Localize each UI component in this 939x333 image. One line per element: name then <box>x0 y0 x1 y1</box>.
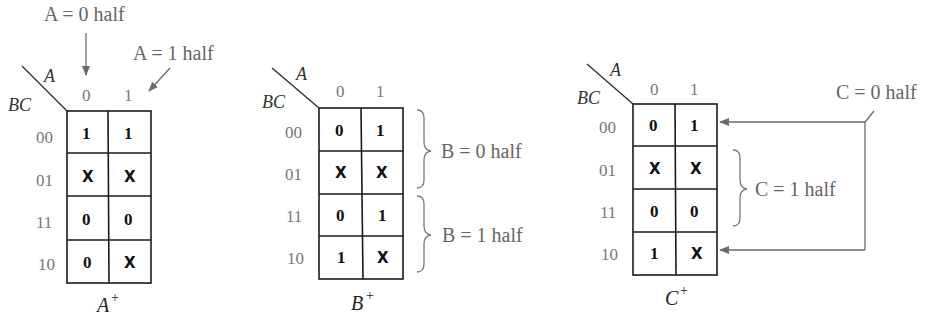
cell-11-0: 0 <box>650 202 659 221</box>
row-label-00: 00 <box>285 123 302 142</box>
row-label-10: 10 <box>601 245 618 264</box>
row-label-00: 00 <box>599 118 616 137</box>
kmap-grid <box>67 111 151 283</box>
row-label-11: 11 <box>36 213 52 232</box>
map-title: C <box>665 287 679 309</box>
cell-11-0: 0 <box>82 210 91 229</box>
row-variable-label: BC <box>577 88 601 108</box>
col-label-0: 0 <box>650 80 659 99</box>
brace-icon <box>417 110 431 188</box>
cell-10-1: X <box>124 254 136 272</box>
col-variable-label: A <box>43 66 56 86</box>
b-zero-half-label: B = 0 half <box>441 140 522 162</box>
map-title-superscript: + <box>680 283 688 298</box>
cell-01-1: X <box>376 164 388 182</box>
a-one-half-label: A = 1 half <box>133 42 214 64</box>
kmap-c: A BC 0 1 00 01 11 10 0 1 X X 0 0 1 X C +… <box>577 60 917 309</box>
cell-10-0: 0 <box>83 253 92 272</box>
leader-tick <box>865 111 874 122</box>
arrow-diagonal-icon <box>149 68 170 91</box>
col-label-0: 0 <box>82 86 91 105</box>
row-label-10: 10 <box>38 255 55 274</box>
row-label-01: 01 <box>36 171 53 190</box>
c-one-half-label: C = 1 half <box>755 178 836 200</box>
cell-01-1: X <box>124 168 136 186</box>
cell-01-1: X <box>690 160 702 178</box>
cell-11-1: 1 <box>378 206 387 225</box>
cell-01-0: X <box>82 168 94 186</box>
row-variable-label: BC <box>8 95 32 115</box>
cell-01-0: X <box>335 164 347 182</box>
cell-10-0: 1 <box>337 248 346 267</box>
brace-icon <box>417 196 431 272</box>
cell-00-1: 1 <box>124 124 133 143</box>
cell-00-0: 0 <box>335 121 344 140</box>
col-variable-label: A <box>609 60 622 80</box>
row-label-00: 00 <box>36 128 53 147</box>
map-title: A <box>95 294 110 316</box>
col-label-0: 0 <box>336 82 345 101</box>
col-label-1: 1 <box>124 86 133 105</box>
col-variable-label: A <box>295 64 308 84</box>
b-one-half-label: B = 1 half <box>442 224 523 246</box>
kmap-b: A BC 0 1 00 01 11 10 0 1 X X 0 1 1 X B +… <box>262 64 523 314</box>
cell-10-1: X <box>377 249 389 267</box>
cell-00-0: 1 <box>82 124 91 143</box>
cell-00-1: 1 <box>690 116 699 135</box>
cell-11-1: 0 <box>690 202 699 221</box>
col-label-1: 1 <box>376 82 385 101</box>
row-variable-label: BC <box>262 92 286 112</box>
kmap-a: A BC 0 1 00 01 11 10 1 1 X X 0 0 0 X A +… <box>8 3 214 316</box>
cell-01-0: X <box>649 160 661 178</box>
cell-00-1: 1 <box>376 121 385 140</box>
cell-00-0: 0 <box>649 116 658 135</box>
row-label-10: 10 <box>287 249 304 268</box>
cell-10-1: X <box>691 245 703 263</box>
row-label-01: 01 <box>285 165 302 184</box>
cell-10-0: 1 <box>650 244 659 263</box>
row-label-11: 11 <box>286 207 302 226</box>
kmap-grid <box>633 104 717 275</box>
cell-11-0: 0 <box>336 206 345 225</box>
cell-11-1: 0 <box>124 210 133 229</box>
a-zero-half-label: A = 0 half <box>44 3 125 25</box>
col-label-1: 1 <box>690 80 699 99</box>
map-title-superscript: + <box>111 290 119 305</box>
karnaugh-maps-diagram: A BC 0 1 00 01 11 10 1 1 X X 0 0 0 X A +… <box>0 0 939 333</box>
map-title: B <box>351 292 363 314</box>
kmap-grid <box>319 108 403 279</box>
c-zero-half-label: C = 0 half <box>836 81 917 103</box>
row-label-01: 01 <box>599 161 616 180</box>
map-title-superscript: + <box>366 288 374 303</box>
row-label-11: 11 <box>600 203 616 222</box>
brace-icon <box>733 150 747 226</box>
